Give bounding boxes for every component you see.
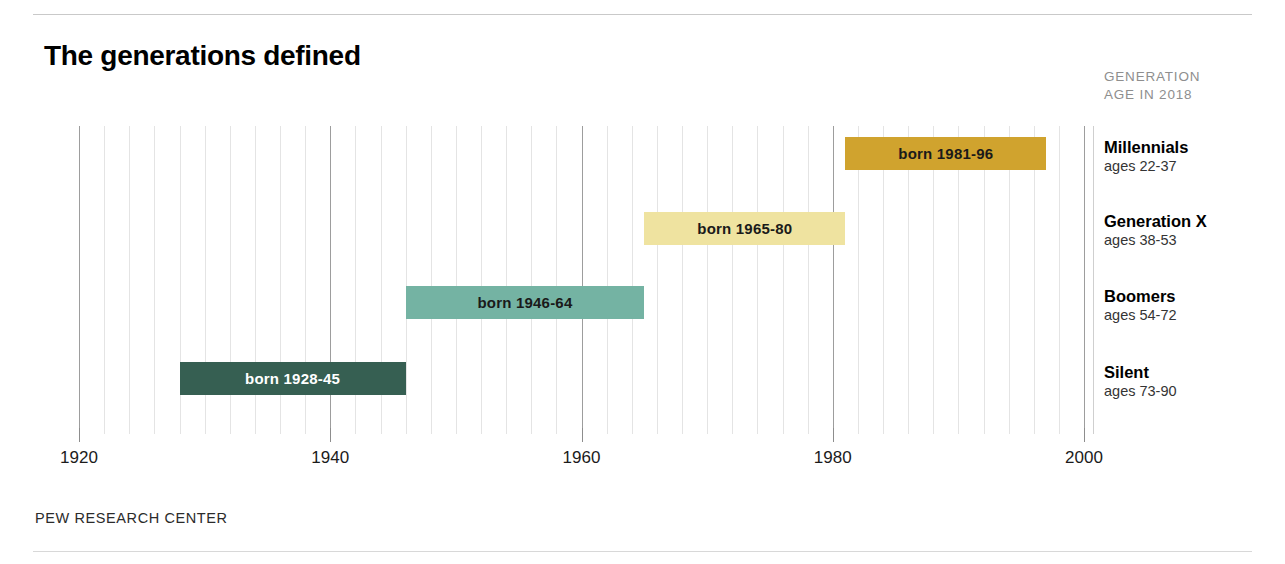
gridline-major xyxy=(582,126,583,434)
axis-label-2000: 2000 xyxy=(1065,448,1103,468)
gridline-minor xyxy=(707,126,708,434)
generation-name: Silent xyxy=(1104,362,1177,382)
axis-label-1920: 1920 xyxy=(60,448,98,468)
axis-tick xyxy=(582,428,583,442)
chart-plot-area: born 1981-96born 1965-80born 1946-64born… xyxy=(79,126,1084,434)
source-credit: PEW RESEARCH CENTER xyxy=(35,510,228,526)
axis-tick xyxy=(330,428,331,442)
bar-silent: born 1928-45 xyxy=(180,362,406,395)
gridline-minor xyxy=(933,126,934,434)
page-title: The generations defined xyxy=(44,40,361,72)
bar-label: born 1946-64 xyxy=(477,294,572,311)
bottom-divider xyxy=(33,551,1252,552)
gridline-minor xyxy=(883,126,884,434)
gridline-minor xyxy=(607,126,608,434)
gridline-minor xyxy=(456,126,457,434)
axis-tick xyxy=(1084,428,1085,442)
gridline-minor xyxy=(732,126,733,434)
gridline-minor xyxy=(984,126,985,434)
gridline-minor xyxy=(154,126,155,434)
bar-label: born 1928-45 xyxy=(245,370,340,387)
gridline-minor xyxy=(682,126,683,434)
bar-millennials: born 1981-96 xyxy=(845,137,1046,170)
generation-ages: ages 38-53 xyxy=(1104,231,1207,250)
gridline-minor xyxy=(757,126,758,434)
gridline-minor xyxy=(958,126,959,434)
gridline-minor xyxy=(657,126,658,434)
generation-ages: ages 22-37 xyxy=(1104,157,1188,176)
gridline-major xyxy=(1084,126,1085,434)
chart-page: The generations defined GENERATION AGE I… xyxy=(0,0,1285,564)
axis-label-1960: 1960 xyxy=(563,448,601,468)
generation-entry-generation-x: Generation Xages 38-53 xyxy=(1104,211,1207,250)
gridline-minor xyxy=(129,126,130,434)
gridline-minor xyxy=(858,126,859,434)
bar-label: born 1965-80 xyxy=(697,220,792,237)
gridline-minor xyxy=(531,126,532,434)
gridline-minor xyxy=(908,126,909,434)
axis-tick xyxy=(833,428,834,442)
bar-boomers: born 1946-64 xyxy=(406,286,645,319)
generation-name: Generation X xyxy=(1104,211,1207,231)
gridline-minor xyxy=(104,126,105,434)
column-header: GENERATION AGE IN 2018 xyxy=(1104,68,1200,104)
gridline-minor xyxy=(1059,126,1060,434)
gridline-minor xyxy=(783,126,784,434)
generation-name: Boomers xyxy=(1104,286,1177,306)
gridline-major xyxy=(833,126,834,434)
generation-ages: ages 54-72 xyxy=(1104,306,1177,325)
gridline-minor xyxy=(506,126,507,434)
gridline-minor xyxy=(1034,126,1035,434)
axis-label-1940: 1940 xyxy=(311,448,349,468)
legend-divider xyxy=(1093,126,1094,434)
bar-generation-x: born 1965-80 xyxy=(644,212,845,245)
bar-label: born 1981-96 xyxy=(898,145,993,162)
gridline-minor xyxy=(481,126,482,434)
generation-ages: ages 73-90 xyxy=(1104,382,1177,401)
axis-label-1980: 1980 xyxy=(814,448,852,468)
gridline-minor xyxy=(808,126,809,434)
gridline-minor xyxy=(431,126,432,434)
top-divider xyxy=(33,14,1252,15)
column-header-line2: AGE IN 2018 xyxy=(1104,86,1200,104)
generation-entry-silent: Silentages 73-90 xyxy=(1104,362,1177,401)
gridline-major xyxy=(79,126,80,434)
gridline-minor xyxy=(406,126,407,434)
column-header-line1: GENERATION xyxy=(1104,68,1200,86)
gridline-minor xyxy=(632,126,633,434)
gridline-minor xyxy=(556,126,557,434)
axis-tick xyxy=(79,428,80,442)
generation-entry-boomers: Boomersages 54-72 xyxy=(1104,286,1177,325)
generation-name: Millennials xyxy=(1104,137,1188,157)
generation-entry-millennials: Millennialsages 22-37 xyxy=(1104,137,1188,176)
gridline-minor xyxy=(1009,126,1010,434)
